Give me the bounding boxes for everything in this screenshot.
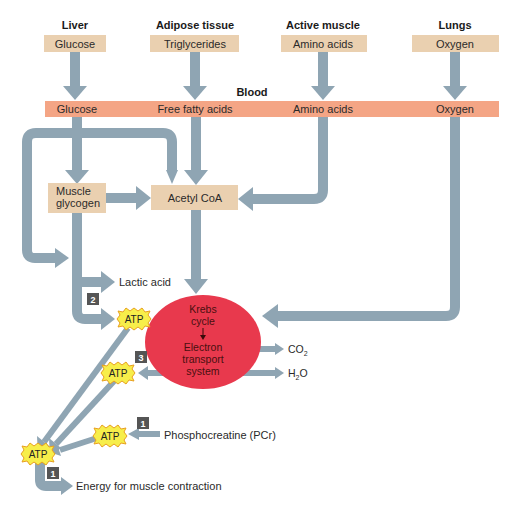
arrowhead xyxy=(275,343,284,355)
h2o-label: H2O xyxy=(288,367,308,381)
arrowhead xyxy=(184,170,208,185)
acetyl-coa-label: Acetyl CoA xyxy=(168,192,223,204)
arrow-atp2-to-final xyxy=(44,328,128,442)
badge-number: 2 xyxy=(90,295,95,305)
co2-label: CO2 xyxy=(288,343,308,357)
blood-bar: Blood Glucose Free fatty acids Amino aci… xyxy=(45,86,499,117)
krebs-line2: cycle xyxy=(191,315,215,327)
source-label-oxygen: Oxygen xyxy=(436,38,474,50)
muscle-glycogen-line1: Muscle xyxy=(56,185,91,197)
arrowhead xyxy=(275,367,284,379)
source-organs: Liver Adipose tissue Active muscle Lungs… xyxy=(44,19,499,52)
arrow-amino-to-acetylcoa xyxy=(252,117,323,199)
badge-number: 1 xyxy=(140,419,145,429)
atp-star-pcr: ATP xyxy=(93,425,127,447)
arrowhead xyxy=(238,187,253,211)
arrowhead xyxy=(183,86,207,100)
arrowhead xyxy=(61,477,73,495)
krebs-line5: system xyxy=(186,365,220,377)
arrowhead xyxy=(262,304,278,328)
blood-label: Blood xyxy=(236,86,267,98)
h2o-h: H xyxy=(288,367,296,379)
arrowhead xyxy=(101,271,115,293)
badge-energy: 1 xyxy=(47,467,59,479)
blood-bar-rect xyxy=(45,101,499,117)
co2-text: CO xyxy=(288,343,304,355)
blood-item-glucose: Glucose xyxy=(57,103,97,115)
atp-label: ATP xyxy=(29,449,48,460)
source-label-triglycerides: Triglycerides xyxy=(164,38,226,50)
arrowhead xyxy=(136,186,151,210)
blood-item-free-fatty-acids: Free fatty acids xyxy=(157,103,233,115)
blood-item-amino-acids: Amino acids xyxy=(293,103,353,115)
arrowhead xyxy=(65,170,89,184)
energy-label: Energy for muscle contraction xyxy=(76,480,222,492)
source-label-amino-acids: Amino acids xyxy=(293,38,353,50)
krebs-line1: Krebs xyxy=(189,303,216,315)
phosphocreatine-label: Phosphocreatine (PCr) xyxy=(164,429,276,441)
krebs-line4: transport xyxy=(182,353,224,365)
h2o-o: O xyxy=(300,367,308,379)
badge-glycolysis: 2 xyxy=(87,293,99,305)
badge-number: 3 xyxy=(138,353,143,363)
arrowhead xyxy=(443,86,467,100)
arrowhead xyxy=(101,308,115,330)
lactic-acid-label: Lactic acid xyxy=(119,276,171,288)
atp-label: ATP xyxy=(125,314,144,325)
source-title-liver: Liver xyxy=(62,19,89,31)
atp-star-oxidative: ATP xyxy=(101,362,135,384)
energy-metabolism-diagram: Liver Adipose tissue Active muscle Lungs… xyxy=(0,0,515,507)
krebs-line3: Electron xyxy=(184,341,223,353)
badge-oxidative: 3 xyxy=(135,351,147,363)
source-title-adipose: Adipose tissue xyxy=(156,19,234,31)
krebs-electron-transport: Krebs cycle Electron transport system xyxy=(145,295,261,389)
blood-item-oxygen: Oxygen xyxy=(436,103,474,115)
arrowhead xyxy=(311,86,335,100)
arrowhead xyxy=(63,86,87,100)
co2-subscript: 2 xyxy=(304,350,308,357)
source-label-glucose: Glucose xyxy=(55,38,95,50)
arrowhead xyxy=(55,248,69,268)
atp-star-glycolysis: ATP xyxy=(117,308,151,330)
source-title-lungs: Lungs xyxy=(439,19,472,31)
arrowhead xyxy=(138,366,148,380)
muscle-glycogen-line2: glycogen xyxy=(56,197,100,209)
atp-label: ATP xyxy=(109,368,128,379)
arrowhead xyxy=(128,428,139,440)
arrowhead xyxy=(166,170,178,184)
arrowhead xyxy=(184,279,208,294)
atp-label: ATP xyxy=(101,431,120,442)
arrow-oxygen-to-krebs xyxy=(276,117,455,316)
badge-number: 1 xyxy=(50,469,55,479)
source-title-active-muscle: Active muscle xyxy=(286,19,360,31)
badge-pcr: 1 xyxy=(137,417,149,429)
